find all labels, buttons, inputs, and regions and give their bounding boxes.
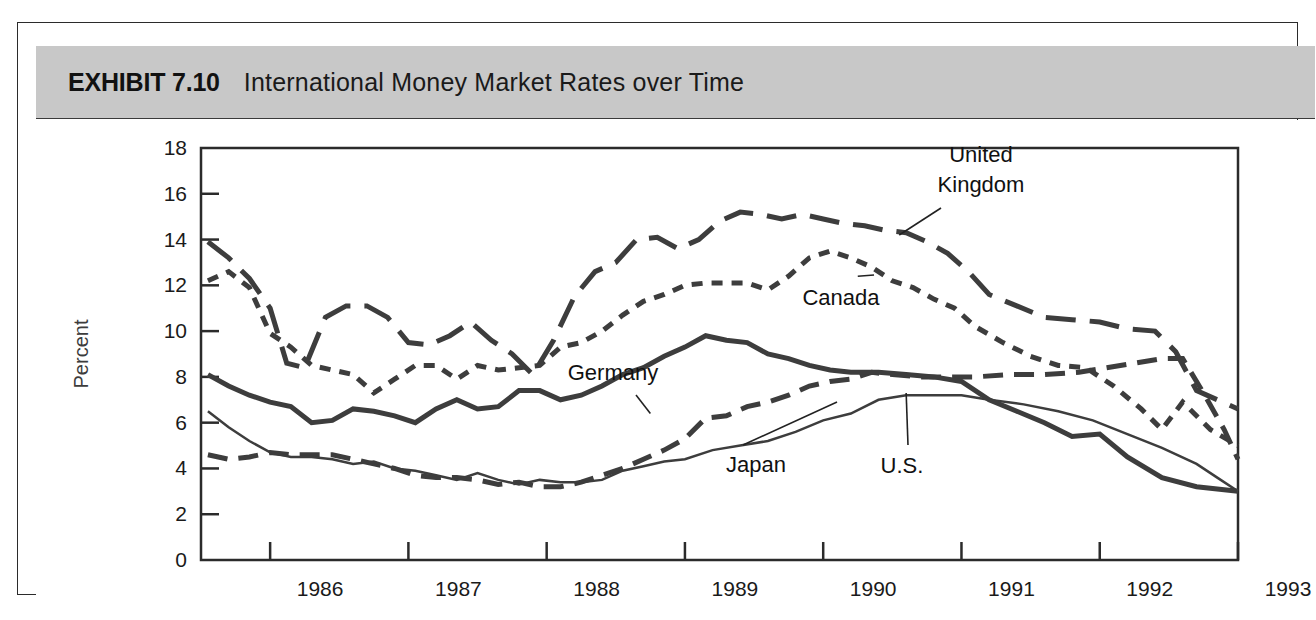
svg-text:8: 8	[175, 365, 187, 388]
svg-text:1986: 1986	[297, 577, 344, 600]
annotation-united-kingdom-text: United	[949, 142, 1013, 167]
svg-text:1993: 1993	[1265, 577, 1312, 600]
y-axis-tick-labels: 024681012141618	[164, 136, 188, 571]
svg-text:1987: 1987	[435, 577, 482, 600]
annotation-japan-text: Japan	[726, 452, 786, 477]
annotation-germany-text: Germany	[568, 360, 658, 385]
svg-text:16: 16	[164, 182, 187, 205]
x-axis-tick-labels: 19861987198819891990199119921993	[297, 577, 1312, 600]
annotation-canada-text: Canada	[802, 285, 880, 310]
svg-text:10: 10	[164, 319, 187, 342]
annotation-united-kingdom-text: Kingdom	[938, 172, 1025, 197]
svg-text:12: 12	[164, 273, 187, 296]
svg-text:1988: 1988	[573, 577, 620, 600]
exhibit-page: EXHIBIT 7.10 International Money Market …	[0, 0, 1316, 620]
exhibit-title: International Money Market Rates over Ti…	[244, 68, 744, 97]
exhibit-header-inner: EXHIBIT 7.10 International Money Market …	[36, 68, 744, 97]
svg-text:1992: 1992	[1126, 577, 1173, 600]
line-chart: 024681012141618 198619871988198919901991…	[36, 120, 1315, 617]
exhibit-number: EXHIBIT 7.10	[68, 68, 220, 97]
svg-text:1991: 1991	[988, 577, 1035, 600]
exhibit-header-band: EXHIBIT 7.10 International Money Market …	[36, 46, 1315, 119]
svg-text:1989: 1989	[712, 577, 759, 600]
svg-text:1990: 1990	[850, 577, 897, 600]
y-axis-title: Percent	[70, 319, 92, 388]
svg-text:0: 0	[175, 548, 187, 571]
svg-text:18: 18	[164, 136, 187, 159]
svg-text:Percent: Percent	[70, 319, 92, 388]
svg-text:14: 14	[164, 228, 188, 251]
svg-text:4: 4	[175, 456, 187, 479]
svg-text:2: 2	[175, 502, 187, 525]
chart-area: 024681012141618 198619871988198919901991…	[36, 120, 1315, 617]
svg-text:6: 6	[175, 411, 187, 434]
exhibit-frame: EXHIBIT 7.10 International Money Market …	[17, 22, 1298, 595]
annotation-u-s-text: U.S.	[881, 453, 924, 478]
plot-frame	[201, 148, 1238, 560]
